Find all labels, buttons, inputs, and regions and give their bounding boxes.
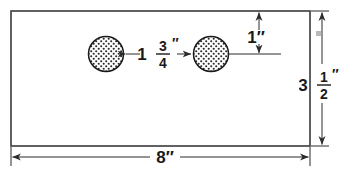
- spacing-whole-number: 1: [138, 45, 147, 64]
- right-hole: [194, 37, 229, 72]
- technical-drawing: 1 3 ″ 4 3 1 ″ 2 1″ 8″: [0, 0, 345, 174]
- height-whole-number: 3: [299, 76, 308, 95]
- spacing-unit-mark: ″: [172, 35, 179, 51]
- hole-spacing-label: 1 3 ″ 4: [138, 34, 184, 74]
- width-value: 8″: [156, 148, 174, 167]
- width-label: 8″: [150, 146, 184, 168]
- scan-artifact: [316, 31, 321, 36]
- spacing-numerator: 3: [159, 38, 167, 54]
- height-unit-mark: ″: [332, 66, 339, 82]
- height-denominator: 2: [320, 86, 328, 102]
- height-label: 3 1 ″ 2: [299, 65, 345, 105]
- left-hole: [89, 37, 124, 72]
- top-offset-value: 1″: [247, 28, 265, 47]
- height-numerator: 1: [320, 69, 328, 85]
- spacing-denominator: 4: [159, 55, 167, 71]
- top-offset-label: 1″: [244, 27, 286, 49]
